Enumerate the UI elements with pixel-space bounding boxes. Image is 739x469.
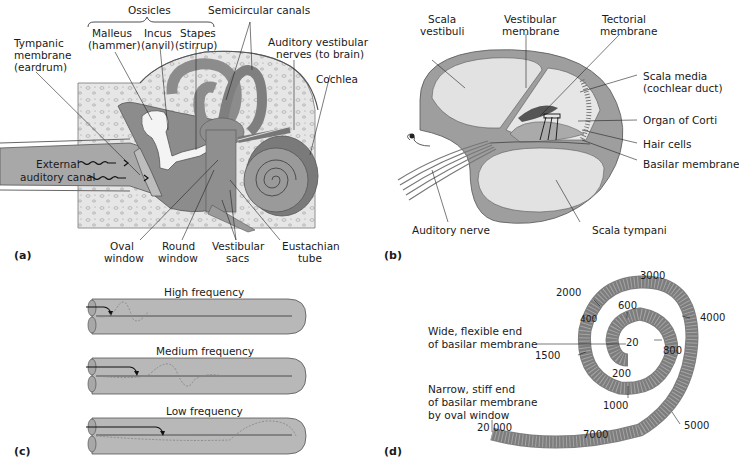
label-nerves-to-brain: nerves (to brain) <box>276 48 364 60</box>
label-round: Round <box>162 240 195 252</box>
label-eustachian-tube: tube <box>298 252 322 264</box>
label-tympanic: Tympanic <box>14 37 64 49</box>
label-cochlea: Cochlea <box>316 73 358 85</box>
freq-200: 200 <box>612 368 631 380</box>
label-vestibular-membrane-2: membrane <box>502 25 559 37</box>
panel-tag-b: (b) <box>384 249 402 262</box>
label-wide-end-2: of basilar membrane <box>428 338 537 350</box>
label-scala-tympani: Scala tympani <box>592 224 667 236</box>
label-cochlear-duct: (cochlear duct) <box>643 82 723 94</box>
label-auditory-nerve: Auditory nerve <box>412 224 490 236</box>
label-incus: Incus <box>144 27 172 39</box>
label-stapes: Stapes <box>180 27 216 39</box>
label-vestibular-sacs: sacs <box>226 252 249 264</box>
freq-600: 600 <box>618 300 637 312</box>
label-hair-cells: Hair cells <box>643 138 691 150</box>
label-external: External <box>36 158 80 170</box>
label-stapes-stirrup: (stirrup) <box>175 39 217 51</box>
freq-3000: 3000 <box>640 270 665 282</box>
freq-400: 400 <box>580 313 597 325</box>
panel-tag-c: (c) <box>14 445 31 458</box>
panel-tag-a: (a) <box>14 249 31 262</box>
label-wide-end: Wide, flexible end <box>428 325 522 337</box>
label-eardrum: (eardrum) <box>14 61 67 73</box>
label-tympanic-membrane: membrane <box>14 49 71 61</box>
label-tectorial: Tectorial <box>602 13 646 25</box>
label-round-window: window <box>158 252 198 264</box>
panel-tag-d: (d) <box>384 445 402 458</box>
label-auditory-vestibular: Auditory vestibular <box>268 36 368 48</box>
freq-2000: 2000 <box>556 287 581 299</box>
freq-800: 800 <box>663 345 682 357</box>
label-malleus: Malleus <box>92 27 132 39</box>
label-scala-media: Scala media <box>643 70 707 82</box>
label-organ-of-corti: Organ of Corti <box>643 114 717 126</box>
label-tectorial-membrane: membrane <box>600 25 657 37</box>
freq-20000: 20 000 <box>477 422 512 434</box>
vestibule <box>206 130 236 212</box>
freq-1000: 1000 <box>603 400 628 412</box>
label-low-frequency: Low frequency <box>166 405 243 417</box>
label-oval: Oval <box>110 240 134 252</box>
label-narrow-end-3: by oval window <box>428 409 509 421</box>
label-scala-vestibuli: vestibuli <box>420 25 464 37</box>
label-medium-frequency: Medium frequency <box>156 345 254 357</box>
label-semicircular-canals: Semicircular canals <box>208 4 310 16</box>
freq-20: 20 <box>626 337 639 349</box>
label-vestibular-membrane-1: Vestibular <box>504 13 556 25</box>
label-oval-window: window <box>104 252 144 264</box>
freq-4000: 4000 <box>700 312 725 324</box>
label-scala: Scala <box>428 13 456 25</box>
label-incus-anvil: (anvil) <box>141 39 174 51</box>
freq-5000: 5000 <box>684 420 709 432</box>
label-narrow-end: Narrow, stiff end <box>428 383 515 395</box>
label-basilar-membrane: Basilar membrane <box>643 158 739 170</box>
basilar-frequency-spiral <box>492 282 692 442</box>
label-high-frequency: High frequency <box>164 286 244 298</box>
uncoiled-cochlea-tubes <box>86 299 306 454</box>
label-malleus-hammer: (hammer) <box>88 39 141 51</box>
label-eustachian: Eustachian <box>282 240 340 252</box>
freq-7000: 7000 <box>583 429 608 441</box>
label-auditory-canal: auditory canal <box>20 171 95 183</box>
label-narrow-end-2: of basilar membrane <box>428 396 537 408</box>
label-vestibular: Vestibular <box>212 240 264 252</box>
label-ossicles: Ossicles <box>128 4 171 16</box>
cochlea-cross-section <box>398 50 623 224</box>
freq-1500: 1500 <box>535 350 560 362</box>
